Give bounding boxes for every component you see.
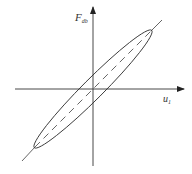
y-axis-label-sub: db: [82, 18, 88, 24]
x-axis-label-sub: 1: [168, 99, 171, 105]
backbone-line-lower: [22, 147, 35, 161]
y-axis-label-main: F: [75, 11, 82, 23]
y-axis-label: Fdb: [75, 12, 88, 24]
x-axis-label: u1: [163, 94, 171, 105]
backbone-line-upper: [151, 20, 162, 31]
hysteresis-diagram: [0, 0, 192, 174]
